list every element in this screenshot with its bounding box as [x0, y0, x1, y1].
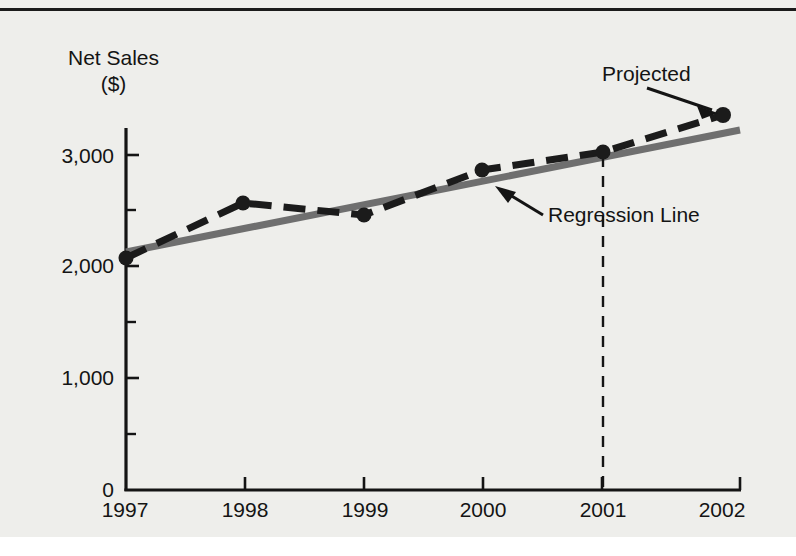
- data-point-1998: [236, 196, 251, 211]
- projected-arrow: [647, 88, 718, 119]
- data-point-2002: [715, 107, 731, 123]
- data-point-2001: [596, 145, 611, 160]
- data-point-1997: [119, 251, 134, 266]
- axis-lines: [124, 128, 741, 491]
- y-axis-major-ticks: [126, 155, 139, 378]
- data-point-2000: [475, 163, 490, 178]
- x-axis-ticks: [245, 477, 740, 490]
- chart-plot: [0, 0, 796, 556]
- regression-line-arrow: [495, 186, 543, 215]
- net-sales-data-points: [119, 107, 732, 266]
- data-point-1999: [357, 208, 372, 223]
- figure-container: Net Sales ($) 3,000 2,000 1,000 0 1997 1…: [0, 0, 796, 556]
